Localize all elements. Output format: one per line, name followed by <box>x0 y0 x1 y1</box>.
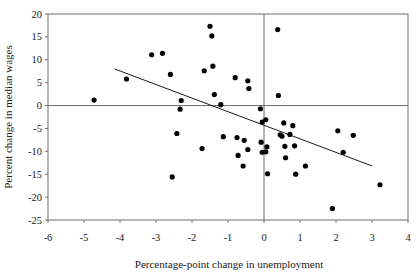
y-axis-title: Percent change in median wages <box>2 45 14 189</box>
y-tick-label: -25 <box>28 215 42 226</box>
data-point <box>218 102 223 107</box>
data-point <box>246 86 251 91</box>
x-tick-label: -2 <box>188 232 197 243</box>
x-tick-label: -4 <box>116 232 125 243</box>
data-point <box>377 182 382 187</box>
x-tick-label: -5 <box>80 232 89 243</box>
data-point <box>170 174 175 179</box>
data-point <box>168 72 173 77</box>
data-point <box>149 52 154 57</box>
data-point <box>235 153 240 158</box>
data-point <box>234 135 239 140</box>
data-point <box>259 140 264 145</box>
y-tick-label: 0 <box>37 100 42 111</box>
data-point <box>265 171 270 176</box>
data-point <box>279 134 284 139</box>
data-point <box>91 97 96 102</box>
data-point <box>245 147 250 152</box>
x-tick-label: 2 <box>333 232 338 243</box>
data-point <box>124 76 129 81</box>
data-point <box>178 107 183 112</box>
y-tick-label: 15 <box>32 31 43 42</box>
scatter-chart-figure: -6-5-4-3-2-101234 20151050-5-10-15-20-25… <box>0 0 418 278</box>
data-point <box>335 128 340 133</box>
data-point <box>174 131 179 136</box>
data-point <box>221 134 226 139</box>
data-point <box>160 51 165 56</box>
data-point <box>282 144 287 149</box>
data-point <box>209 33 214 38</box>
x-tick-label: 4 <box>405 232 411 243</box>
data-point <box>212 92 217 97</box>
y-tick-label: -15 <box>28 169 42 180</box>
data-point <box>242 138 247 143</box>
y-tick-label: -5 <box>33 123 42 134</box>
data-point <box>199 146 204 151</box>
y-tick-label: -10 <box>28 146 42 157</box>
data-point <box>283 155 288 160</box>
data-point <box>330 206 335 211</box>
x-tick-label: -6 <box>44 232 53 243</box>
data-point <box>263 117 268 122</box>
data-point <box>264 144 269 149</box>
data-point <box>287 132 292 137</box>
y-tick-label: 20 <box>32 9 43 20</box>
x-tick-label: -1 <box>224 232 233 243</box>
x-tick-label: 3 <box>369 232 374 243</box>
data-point <box>258 106 263 111</box>
data-point <box>202 68 207 73</box>
data-point <box>290 123 295 128</box>
chart-background <box>0 0 418 278</box>
data-point <box>207 24 212 29</box>
data-point <box>281 120 286 125</box>
x-tick-label: -3 <box>152 232 161 243</box>
data-point <box>293 172 298 177</box>
y-tick-label: 5 <box>37 77 42 88</box>
scatter-plot-canvas: -6-5-4-3-2-101234 20151050-5-10-15-20-25… <box>0 0 418 278</box>
data-point <box>303 163 308 168</box>
data-point <box>341 150 346 155</box>
data-point <box>210 64 215 69</box>
data-point <box>275 27 280 32</box>
data-point <box>263 149 268 154</box>
y-tick-label: -20 <box>28 192 42 203</box>
x-axis-title: Percentage-point change in unemployment <box>135 258 323 270</box>
x-tick-label: 1 <box>297 232 302 243</box>
data-point <box>233 75 238 80</box>
data-point <box>245 78 250 83</box>
data-point <box>179 98 184 103</box>
data-point <box>292 143 297 148</box>
data-point <box>241 163 246 168</box>
data-point <box>351 133 356 138</box>
y-tick-label: 10 <box>32 54 43 65</box>
data-point <box>276 93 281 98</box>
x-tick-label: 0 <box>261 232 266 243</box>
